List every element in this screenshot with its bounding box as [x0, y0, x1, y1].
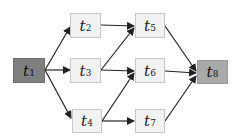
edge-t1-t4 — [45, 70, 71, 118]
edge-t3-t6 — [101, 70, 134, 71]
node-subscript: 4 — [87, 118, 93, 128]
node-t8: t8 — [197, 60, 228, 84]
node-subscript: 5 — [150, 23, 156, 33]
node-subscript: 7 — [150, 118, 156, 128]
node-t3: t3 — [70, 58, 101, 83]
node-t5: t5 — [135, 13, 165, 38]
edge-t1-t2 — [45, 27, 70, 70]
edge-t7-t8 — [165, 76, 196, 121]
node-t7: t7 — [135, 109, 165, 133]
edge-t6-t8 — [165, 71, 196, 73]
node-t2: t2 — [70, 13, 101, 38]
node-t1: t1 — [13, 58, 45, 83]
node-subscript: 1 — [29, 68, 35, 78]
edge-t4-t6 — [102, 73, 134, 121]
node-t6: t6 — [135, 58, 165, 83]
node-subscript: 8 — [213, 69, 219, 79]
edge-t2-t5 — [101, 25, 134, 26]
node-subscript: 3 — [86, 68, 92, 78]
node-subscript: 2 — [86, 23, 92, 33]
edge-t3-t5 — [101, 28, 134, 70]
edge-t5-t8 — [165, 26, 196, 71]
node-t4: t4 — [72, 109, 102, 133]
node-subscript: 6 — [150, 68, 156, 78]
